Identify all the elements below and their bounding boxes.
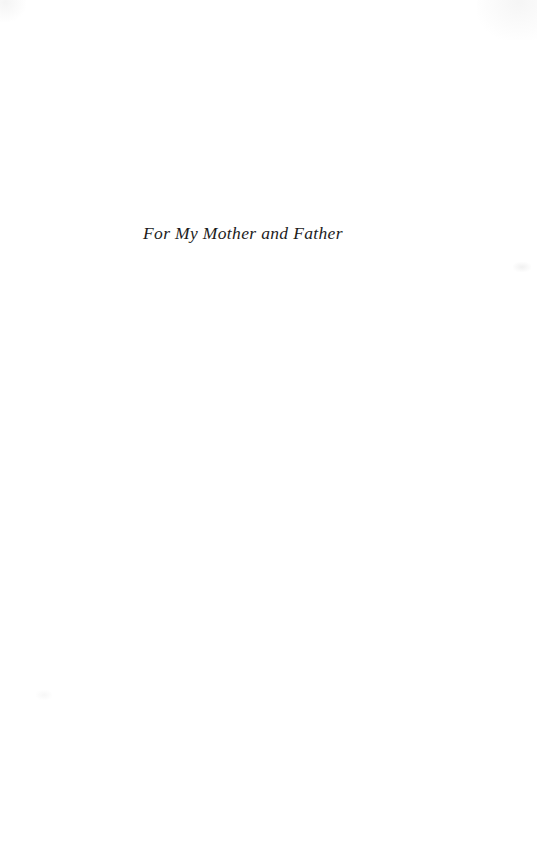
scan-artifact-mid-right-icon: [513, 262, 531, 272]
scan-artifact-lower-left-icon: [36, 690, 52, 700]
scanned-page: For My Mother and Father: [0, 0, 537, 858]
scan-artifact-top-left-icon: [0, 0, 26, 22]
dedication-block: For My Mother and Father: [143, 222, 403, 244]
dedication-text: For My Mother and Father: [143, 222, 403, 244]
scan-artifact-top-right-icon: [477, 0, 537, 40]
